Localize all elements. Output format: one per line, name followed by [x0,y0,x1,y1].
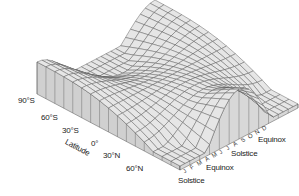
lat-tick-90s: 90°S [18,96,35,105]
equinox-label-1: Equinox [206,163,234,172]
surface-plot [0,0,299,196]
lat-tick-30s: 30°S [62,126,79,135]
lat-tick-60n: 60°N [126,164,143,173]
solstice-label-1: Solstice [178,176,204,185]
lat-tick-30n: 30°N [103,151,120,160]
solstice-label-2: Solstice [231,149,257,158]
lat-tick-0: 0° [91,139,98,148]
equinox-label-2: Equinox [258,135,286,144]
lat-tick-60s: 60°S [41,113,58,122]
